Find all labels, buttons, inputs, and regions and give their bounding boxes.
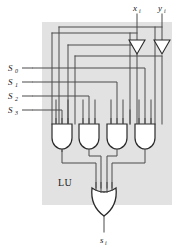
- panel-label-lu: LU: [58, 177, 73, 188]
- label-select-s1-sub: 1: [15, 82, 18, 88]
- label-y-input: y: [157, 3, 162, 13]
- label-y-input-sub: i: [164, 8, 166, 14]
- label-output-s: s: [100, 235, 104, 245]
- label-x-input-sub: i: [139, 8, 141, 14]
- label-select-s2: S: [8, 91, 13, 101]
- figure-canvas: x i y i S 0 S 1 S 2 S 3 LU s i: [0, 0, 180, 250]
- label-select-s1: S: [8, 77, 13, 87]
- label-select-s2-sub: 2: [15, 96, 18, 102]
- label-x-input: x: [132, 3, 137, 13]
- label-select-s3: S: [8, 105, 13, 115]
- label-select-s3-sub: 3: [14, 110, 18, 116]
- select-leaders: [22, 68, 33, 110]
- lu-circuit-diagram: x i y i S 0 S 1 S 2 S 3 LU s i: [0, 0, 180, 250]
- label-output-s-sub: i: [105, 240, 107, 246]
- label-select-s0-sub: 0: [15, 68, 18, 74]
- label-select-s0: S: [8, 63, 13, 73]
